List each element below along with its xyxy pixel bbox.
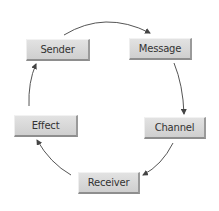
- node-receiver: Receiver: [78, 172, 140, 194]
- node-channel: Channel: [144, 117, 206, 139]
- node-label: Channel: [155, 122, 195, 133]
- node-message: Message: [129, 38, 192, 60]
- arrow-sender-to-message: [64, 22, 150, 35]
- arrow-effect-to-sender: [29, 64, 36, 106]
- arrow-message-to-channel: [174, 63, 184, 114]
- arrow-receiver-to-effect: [37, 140, 71, 175]
- node-label: Effect: [32, 120, 60, 131]
- node-label: Receiver: [88, 177, 130, 188]
- node-label: Message: [139, 43, 181, 54]
- node-effect: Effect: [14, 115, 78, 137]
- node-sender: Sender: [26, 39, 90, 61]
- node-label: Sender: [40, 44, 74, 55]
- arrow-channel-to-receiver: [143, 143, 173, 175]
